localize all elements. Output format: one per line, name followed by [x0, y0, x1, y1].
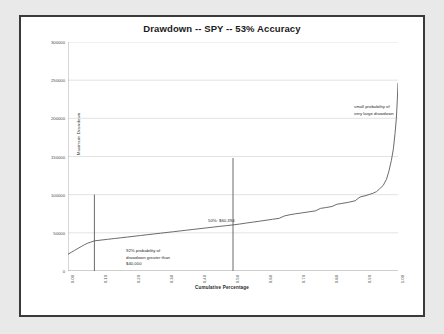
x-axis-tick-label: 0.30	[169, 275, 174, 283]
screenshot-page: Drawdown -- SPY -- 53% Accuracy Maximum …	[0, 0, 444, 334]
annotation-line: $40,000	[126, 261, 170, 268]
x-axis-tick-label: 0.80	[334, 275, 339, 283]
annotation-line: small probability of	[354, 104, 394, 111]
y-axis-tick-label: 200000	[51, 116, 65, 121]
y-axis-tick-label: 300000	[51, 40, 65, 45]
chart-canvas: Drawdown -- SPY -- 53% Accuracy Maximum …	[21, 17, 423, 315]
x-axis-tick-label: 0.50	[235, 275, 240, 283]
annotation-line: 50%: $60,394	[208, 218, 235, 225]
x-axis-tick-label: 0.90	[367, 275, 372, 283]
chart-title: Drawdown -- SPY -- 53% Accuracy	[21, 23, 423, 34]
annotation-line: drawdown greater than	[126, 255, 170, 262]
annotation-line: 92% probability of	[126, 248, 170, 255]
x-axis-tick-label: 0.20	[136, 275, 141, 283]
median-annotation: 50%: $60,394	[208, 218, 235, 225]
y-axis-tick-label: 50000	[53, 230, 65, 235]
x-axis-tick-label: 0.00	[70, 275, 75, 283]
x-axis-tick-label: 0.60	[268, 275, 273, 283]
x-axis-tick-label: 1.00	[400, 275, 405, 283]
right-annotation: small probability ofvery large drawdown	[354, 104, 394, 117]
y-axis-tick-label: 250000	[51, 78, 65, 83]
y-axis-tick-label: 150000	[51, 154, 65, 159]
chart-frame: Drawdown -- SPY -- 53% Accuracy Maximum …	[19, 15, 425, 317]
x-axis-tick-label: 0.70	[301, 275, 306, 283]
x-axis-tick-label: 0.40	[202, 275, 207, 283]
annotation-line: very large drawdown	[354, 111, 394, 118]
plot-area: Maximum Drawdown 05000010000015000020000…	[68, 42, 398, 271]
left-annotation: 92% probability ofdrawdown greater than$…	[126, 248, 170, 268]
y-axis-tick-label: 0	[63, 269, 65, 274]
x-axis-tick-label: 0.10	[103, 275, 108, 283]
y-axis-tick-label: 100000	[51, 192, 65, 197]
x-axis-title: Cumulative Percentage	[21, 285, 423, 290]
chart-plot-svg	[68, 42, 398, 271]
